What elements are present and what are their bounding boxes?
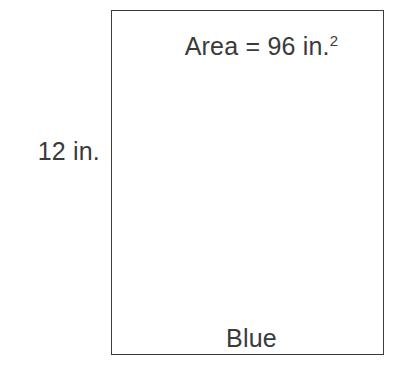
figure-canvas: Area = 96 in.2 Blue 12 in. [0, 0, 400, 380]
area-label-text: Area = 96 in. [185, 32, 330, 60]
area-unit-exponent: 2 [330, 32, 339, 49]
area-label: Area = 96 in.2 [112, 33, 397, 59]
rectangle-shape: Area = 96 in.2 Blue [111, 10, 384, 355]
height-dimension-label: 12 in. [0, 138, 100, 164]
region-name-label: Blue [112, 325, 387, 351]
